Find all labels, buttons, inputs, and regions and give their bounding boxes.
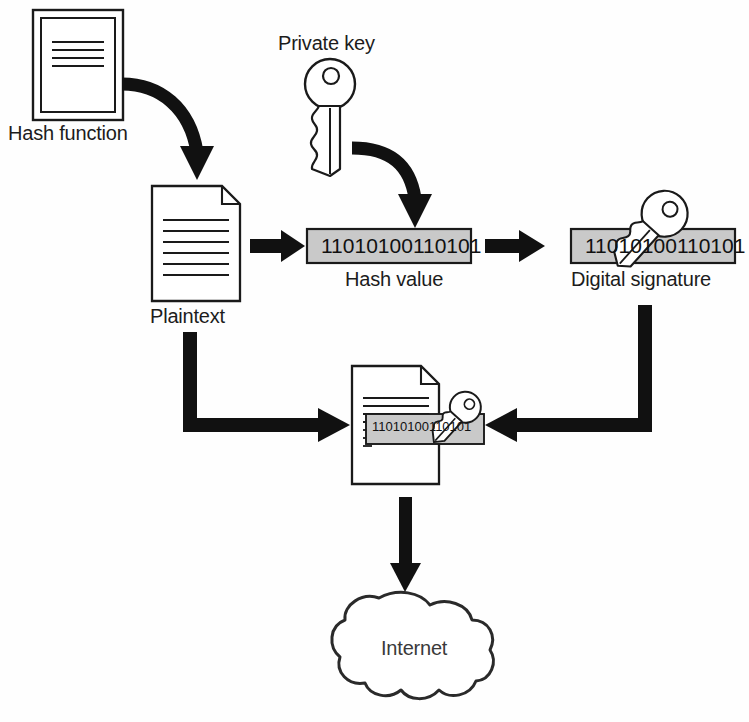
- label-hash-value: Hash value: [345, 268, 443, 291]
- private-key-icon: [305, 59, 355, 176]
- arrow-private-key-to-hash-value: [352, 148, 432, 228]
- arrow-digital-signature-to-signed-document: [485, 305, 645, 442]
- label-hash-function: Hash function: [8, 122, 128, 145]
- signed-document-binary-text: 11010100110101: [372, 419, 471, 434]
- plaintext-document-icon: [152, 186, 240, 301]
- arrow-signed-document-to-internet: [390, 497, 421, 592]
- diagram-canvas: Hash function Private key Plaintext Hash…: [0, 0, 749, 722]
- label-private-key: Private key: [278, 32, 375, 55]
- arrow-hash-value-to-digital-signature: [485, 230, 545, 262]
- label-digital-signature: Digital signature: [571, 268, 711, 291]
- hash-function-document-icon: [33, 10, 123, 120]
- digital-signature-flow-diagram: [0, 0, 749, 722]
- hash-value-binary-text: 11010100110101: [321, 234, 481, 258]
- label-plaintext: Plaintext: [150, 305, 225, 328]
- digital-signature-binary-text: 11010100110101: [585, 234, 745, 258]
- arrow-plaintext-to-hash-value: [250, 230, 305, 262]
- arrow-hash-function-to-plaintext: [122, 84, 214, 180]
- label-internet: Internet: [381, 637, 447, 660]
- arrow-plaintext-to-signed-document: [190, 332, 350, 442]
